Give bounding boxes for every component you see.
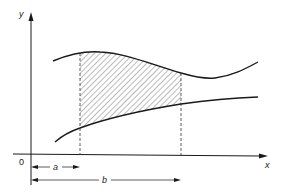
shaded-region — [80, 52, 181, 128]
dimension-b: b — [31, 175, 181, 185]
arrow-left-icon — [31, 178, 38, 182]
diagram-canvas: a b y x 0 — [0, 0, 281, 194]
y-axis-arrow-icon — [29, 12, 34, 21]
arrow-left-icon — [31, 165, 38, 169]
arrow-right-icon — [174, 178, 181, 182]
x-axis-arrow-icon — [259, 154, 268, 159]
y-axis-label: y — [18, 9, 24, 19]
x-axis — [13, 154, 268, 159]
arrow-right-icon — [73, 165, 80, 169]
y-axis — [29, 12, 34, 185]
area-between-curves-diagram: a b y x 0 — [0, 0, 281, 194]
label-a: a — [53, 162, 58, 172]
origin-label: 0 — [19, 157, 24, 167]
label-b: b — [102, 175, 107, 185]
x-axis-label: x — [264, 160, 270, 170]
dimension-a: a — [31, 162, 80, 172]
